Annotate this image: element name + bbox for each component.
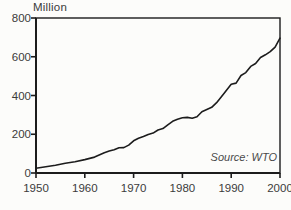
x-tick-label: 1970 bbox=[114, 182, 154, 194]
x-tick-label: 1990 bbox=[211, 182, 251, 194]
x-tick-label: 1980 bbox=[162, 182, 202, 194]
x-tick-label: 1960 bbox=[65, 182, 105, 194]
x-tick-label: 2000 bbox=[260, 182, 291, 194]
y-tick-label: 0 bbox=[0, 167, 31, 179]
data-line bbox=[36, 38, 280, 168]
tourist-arrivals-chart: Million 0200400600800 195019601970198019… bbox=[0, 0, 291, 210]
axis-box bbox=[36, 18, 280, 173]
y-tick-label: 400 bbox=[0, 90, 31, 102]
y-tick-label: 800 bbox=[0, 12, 31, 24]
line-chart-plot bbox=[0, 0, 291, 210]
source-label: Source: WTO bbox=[211, 151, 277, 163]
y-tick-label: 200 bbox=[0, 128, 31, 140]
x-tick-label: 1950 bbox=[16, 182, 56, 194]
y-tick-label: 600 bbox=[0, 51, 31, 63]
